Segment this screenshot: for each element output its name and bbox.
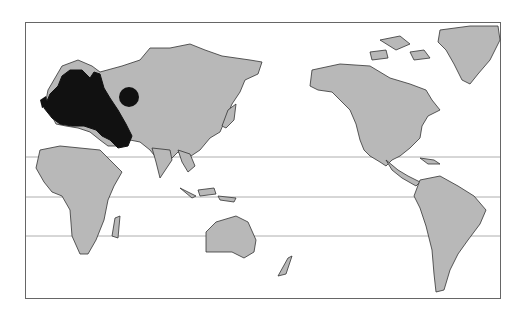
- location-marker: [119, 87, 139, 107]
- world-map: [0, 0, 526, 309]
